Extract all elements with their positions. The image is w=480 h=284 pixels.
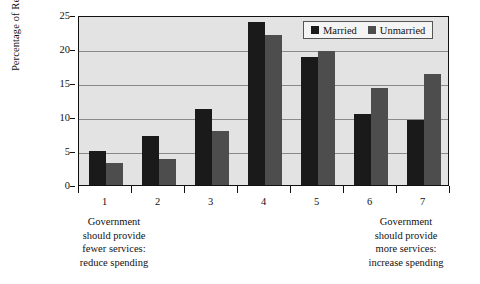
y-tick-mark (70, 50, 75, 51)
bar-unmarried-1 (106, 163, 123, 185)
bar-group (89, 17, 123, 185)
annotation-line: fewer services: (48, 242, 180, 256)
y-tick-label: 0 (44, 181, 70, 191)
y-tick-label: 20 (44, 45, 70, 55)
annotation-more-services: Governmentshould providemore services:in… (340, 215, 472, 269)
y-tick-mark (70, 16, 75, 17)
legend-entry-married: Married (311, 25, 357, 36)
bar-group (407, 17, 441, 185)
x-tick-label: 4 (249, 196, 279, 207)
bar-group (248, 17, 282, 185)
legend-swatch-icon (368, 26, 376, 34)
x-tick-mark (78, 186, 79, 193)
bar-unmarried-6 (371, 88, 388, 185)
x-tick-mark (290, 186, 291, 193)
y-tick-mark (70, 84, 75, 85)
x-tick-label: 2 (143, 196, 173, 207)
annotation-line: increase spending (340, 256, 472, 270)
legend-entry-unmarried: Unmarried (368, 25, 425, 36)
plot-area (78, 16, 449, 186)
x-tick-label: 1 (90, 196, 120, 207)
annotation-line: should provide (340, 229, 472, 243)
y-tick-label: 5 (44, 147, 70, 157)
x-tick-label: 6 (355, 196, 385, 207)
legend-swatch-icon (311, 26, 319, 34)
bar-groups (79, 17, 448, 185)
legend-label: Unmarried (380, 25, 425, 36)
bar-unmarried-4 (265, 35, 282, 185)
annotation-line: more services: (340, 242, 472, 256)
annotation-line: Government (340, 215, 472, 229)
bar-unmarried-3 (212, 131, 229, 185)
x-tick-label: 5 (302, 196, 332, 207)
bar-group (195, 17, 229, 185)
x-tick-mark (131, 186, 132, 193)
y-tick-label: 10 (44, 113, 70, 123)
x-tick-label: 3 (196, 196, 226, 207)
bar-unmarried-2 (159, 159, 176, 185)
bar-married-6 (354, 114, 371, 185)
y-axis-title: Percentage of Respondents (10, 0, 32, 98)
bar-married-3 (195, 109, 212, 185)
bar-married-4 (248, 22, 265, 185)
y-tick-mark (70, 152, 75, 153)
annotation-line: Government (48, 215, 180, 229)
bar-married-7 (407, 120, 424, 185)
x-tick-mark (343, 186, 344, 193)
x-axis: 1234567 (78, 186, 449, 187)
bar-group (301, 17, 335, 185)
x-tick-mark (396, 186, 397, 193)
y-tick-label: 15 (44, 79, 70, 89)
bar-married-5 (301, 57, 318, 185)
y-tick-label: 25 (44, 11, 70, 21)
bar-married-2 (142, 136, 159, 185)
bar-group (354, 17, 388, 185)
bar-group (142, 17, 176, 185)
legend: MarriedUnmarried (303, 21, 433, 39)
bar-unmarried-5 (318, 51, 335, 185)
x-tick-label: 7 (408, 196, 438, 207)
annotation-line: reduce spending (48, 256, 180, 270)
x-tick-mark (449, 186, 450, 193)
bar-unmarried-7 (424, 74, 441, 185)
bar-married-1 (89, 151, 106, 185)
legend-label: Married (323, 25, 357, 36)
annotation-line: should provide (48, 229, 180, 243)
x-tick-mark (237, 186, 238, 193)
annotation-fewer-services: Governmentshould providefewer services:r… (48, 215, 180, 269)
x-tick-mark (184, 186, 185, 193)
grouped-bar-chart: Percentage of Respondents 0510152025 123… (0, 0, 480, 284)
y-tick-mark (70, 186, 75, 187)
y-tick-mark (70, 118, 75, 119)
